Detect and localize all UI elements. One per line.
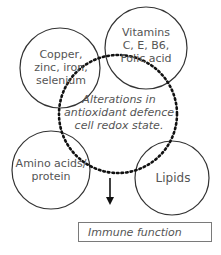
minerals-label: Copper, zinc, iron, selenium [22,48,100,87]
central-label: Alterations in antioxidant defence cell … [62,93,176,132]
arrow-head-icon [106,197,114,205]
vitamins-label: Vitamins C, E, B6, Folic acid [106,26,186,65]
immune-function-label: Immune function [88,226,182,239]
lipids-label: Lipids [136,172,210,185]
amino-label: Amino acids/ protein [12,157,90,183]
immune-function-box: Immune function [78,222,212,242]
